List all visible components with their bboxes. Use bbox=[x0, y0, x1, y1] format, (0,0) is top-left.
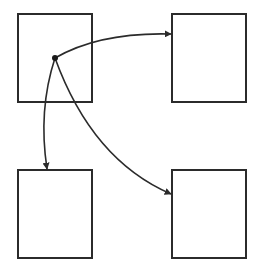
source-dot bbox=[52, 55, 58, 61]
diagram-canvas bbox=[0, 0, 261, 275]
edge-to-top-right bbox=[55, 34, 171, 58]
node-bottom-right bbox=[172, 170, 246, 258]
node-top-right bbox=[172, 14, 246, 102]
edge-to-bottom-left bbox=[44, 58, 55, 169]
node-bottom-left bbox=[18, 170, 92, 258]
edge-to-bottom-right bbox=[55, 58, 171, 194]
